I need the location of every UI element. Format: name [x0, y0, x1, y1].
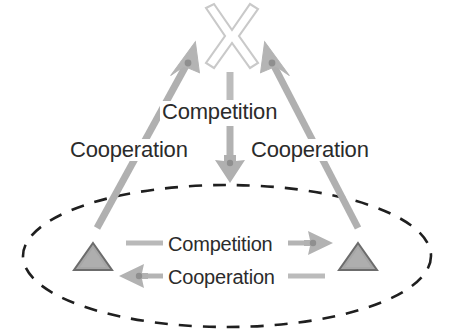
label-cooperation-left: Cooperation [68, 139, 190, 161]
diagram-canvas: Competition Cooperation Cooperation Comp… [0, 0, 453, 332]
label-competition-inner: Competition [166, 234, 275, 254]
edge-cooperation-left [97, 42, 200, 228]
label-cooperation-right: Cooperation [249, 139, 371, 161]
edge-cooperation-right [260, 42, 358, 228]
label-competition-top: Competition [160, 101, 279, 123]
triangle-icon-left [74, 243, 112, 270]
label-cooperation-inner: Cooperation [166, 267, 277, 287]
cross-x-icon [206, 4, 258, 68]
triangle-icon-right [339, 243, 377, 270]
edge-competition-vertical [215, 72, 245, 183]
